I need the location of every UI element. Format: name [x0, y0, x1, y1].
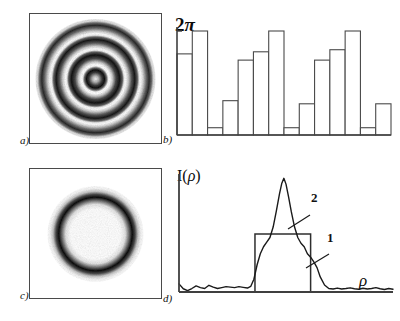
- panel-d-label: d): [163, 293, 172, 304]
- intensity-profile-chart: [169, 168, 397, 313]
- panel-a: a): [20, 13, 162, 153]
- panel-d: I(ρ) ρ 2 1 d): [163, 168, 397, 318]
- panel-c-label: c): [20, 290, 29, 301]
- concentric-rings-image: [34, 17, 157, 141]
- histogram-bar: [360, 128, 375, 135]
- histogram-bar: [299, 104, 314, 135]
- histogram-bar: [238, 60, 253, 135]
- single-ring-image: [34, 172, 157, 296]
- panel-b: 2π b): [163, 13, 395, 153]
- histogram-bar: [330, 50, 345, 135]
- histogram-bar: [345, 31, 360, 135]
- histogram-bar: [223, 101, 238, 135]
- histogram-bar: [177, 54, 192, 135]
- curve-1-rect: [179, 234, 393, 292]
- histogram-bars: [177, 31, 391, 135]
- leader-line-curve-2: [288, 215, 310, 229]
- panel-b-label: b): [163, 134, 172, 145]
- histogram-bar: [253, 52, 268, 135]
- panel-a-label: a): [20, 135, 29, 146]
- figure-root: a) 2π b): [0, 0, 400, 321]
- histogram-bar: [208, 128, 223, 135]
- histogram-bar: [269, 31, 284, 135]
- histogram-bar: [315, 60, 330, 135]
- histogram-bar: [376, 104, 391, 135]
- phase-histogram-chart: [169, 13, 395, 149]
- panel-c: c): [20, 168, 162, 313]
- histogram-bar: [192, 31, 207, 135]
- histogram-bar: [284, 128, 299, 135]
